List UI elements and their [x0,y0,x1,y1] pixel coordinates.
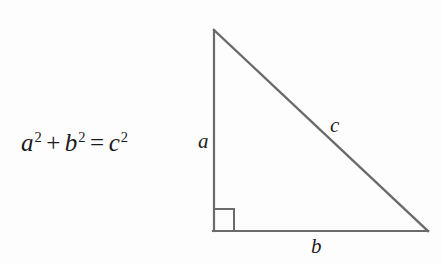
side-label-a: a [198,131,209,152]
side-label-c: c [330,115,339,136]
right-angle-marker-icon [214,209,234,231]
right-triangle-drawing [0,0,442,264]
triangle-side-c-hypotenuse [214,30,428,231]
side-label-b: b [311,236,322,257]
pythagorean-theorem-figure: a2+b2=c2 a b c [0,0,442,264]
